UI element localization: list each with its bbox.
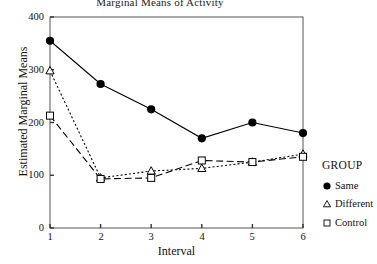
open-triangle-icon: [322, 199, 335, 209]
data-point: [198, 157, 205, 164]
data-point: [300, 153, 307, 160]
plot-area: [0, 0, 377, 264]
data-point: [47, 112, 54, 119]
x-axis-title: Interval: [50, 244, 303, 259]
legend-item-same[interactable]: Same: [322, 181, 377, 192]
legend-item-different[interactable]: Different: [322, 199, 377, 210]
data-point: [46, 37, 54, 45]
chart-container: Marginal Means of Activity Estimated Mar…: [0, 0, 377, 264]
legend-item-control[interactable]: Control: [322, 218, 377, 229]
plot-frame: [50, 17, 303, 228]
data-point: [147, 105, 155, 113]
legend-title: GROUP: [322, 160, 377, 172]
data-point: [148, 174, 155, 181]
open-square-icon: [322, 218, 335, 228]
legend: GROUP Same Different Control: [322, 160, 377, 236]
data-point: [249, 159, 256, 166]
data-point: [97, 175, 104, 182]
legend-item-label: Same: [335, 181, 358, 192]
data-point: [198, 134, 206, 142]
data-point: [299, 129, 307, 137]
data-point: [248, 118, 256, 126]
series-line-same: [50, 41, 303, 139]
data-point: [97, 80, 105, 88]
filled-circle-icon: [322, 181, 335, 191]
legend-item-label: Different: [335, 199, 373, 210]
legend-item-label: Control: [335, 218, 367, 229]
